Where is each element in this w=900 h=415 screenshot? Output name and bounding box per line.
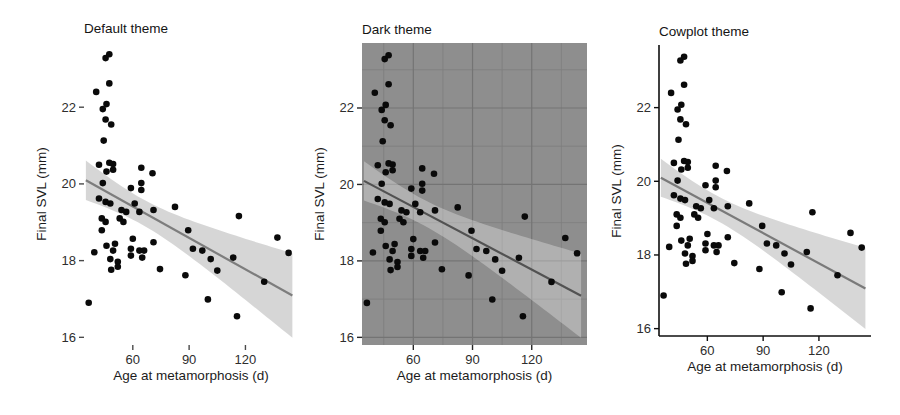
data-point [385,52,392,59]
data-point [473,246,480,253]
data-point [522,213,529,220]
panel-title-cowplot-theme: Cowplot theme [659,25,749,39]
data-point [103,242,110,249]
data-point [205,296,212,303]
x-tick-label: 90 [756,343,770,358]
data-point [138,180,145,187]
data-point [548,279,555,286]
data-point [172,204,179,211]
data-point [412,201,419,208]
data-point [419,180,426,187]
data-point [702,182,709,189]
data-point [807,305,814,312]
data-point [389,248,396,255]
data-point [139,254,146,261]
data-point [677,215,684,222]
data-point [422,248,429,255]
data-point [492,256,499,263]
data-point [261,278,268,285]
data-point [671,160,678,167]
data-point [764,240,771,247]
data-point [96,161,103,168]
data-point [106,51,113,58]
data-point [387,122,394,129]
y-tick-label: 18 [340,253,354,268]
data-point [834,272,841,279]
panel-cowplot-theme: 161820226090120 [637,45,871,358]
data-point [683,261,690,268]
y-tick-label: 16 [62,330,76,345]
y-axis-label-dark-theme: Final SVL (mm) [313,147,327,240]
y-axis-label-default-theme: Final SVL (mm) [35,147,49,240]
data-point [378,227,385,234]
data-point [157,266,164,273]
data-point [682,250,689,257]
data-point [100,137,107,144]
panel-title-dark-theme: Dark theme [362,23,432,37]
data-point [372,89,379,96]
x-axis-label-dark-theme: Age at metamorphosis (d) [397,369,552,383]
data-point [778,289,785,296]
y-tick-label: 20 [340,177,354,192]
data-point [711,205,718,212]
data-point [781,250,788,257]
data-point [389,167,396,174]
data-point [408,185,415,192]
data-point [150,239,157,246]
data-point [100,180,107,187]
data-point [454,204,461,211]
data-point [185,227,192,234]
data-point [102,219,109,226]
y-tick-label: 16 [340,330,354,345]
data-point [432,239,439,246]
data-point [378,180,385,187]
x-tick-label: 120 [235,352,257,367]
data-point [141,247,148,254]
data-point [102,116,109,123]
data-point [712,184,719,191]
data-point [136,209,143,216]
data-point [681,54,688,61]
data-point [731,260,738,267]
data-point [190,245,197,252]
data-point [489,296,496,303]
y-axis-label-cowplot-theme: Final SVL (mm) [610,144,624,237]
data-point [858,244,865,251]
data-point [112,240,119,247]
data-point [704,231,711,238]
data-point [138,187,145,194]
data-point [379,138,386,145]
data-point [375,196,382,203]
x-tick-label: 60 [700,343,714,358]
x-axis-label-default-theme: Age at metamorphosis (d) [113,369,268,383]
data-point [103,168,110,175]
data-point [674,177,681,184]
data-point [130,236,137,243]
data-point [389,161,396,168]
data-point [408,246,415,253]
data-point [96,195,103,202]
data-point [686,236,693,243]
data-point [681,82,688,89]
data-point [468,227,475,234]
data-point [685,242,692,249]
y-tick-label: 22 [637,100,651,115]
data-point [236,213,243,220]
data-point [408,253,415,260]
data-point [108,267,115,274]
data-point [759,223,766,230]
data-point [483,248,490,255]
data-point [712,163,719,170]
data-point [108,121,115,128]
data-point [562,235,569,242]
data-point [207,256,214,263]
data-point [671,192,678,199]
y-tick-label: 18 [62,253,76,268]
data-point [364,300,371,307]
data-point [150,207,157,214]
y-tick-label: 22 [340,100,354,115]
data-point [391,241,398,248]
data-point [695,215,702,222]
data-point [274,234,281,241]
x-tick-label: 60 [126,352,140,367]
